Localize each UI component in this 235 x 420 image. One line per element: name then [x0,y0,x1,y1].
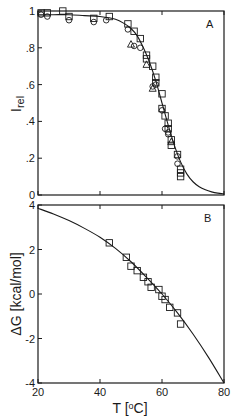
square-marker [140,274,146,280]
y-tick-label: .4 [26,115,35,127]
circle-marker [138,45,144,51]
panel-a-label: A [206,18,214,30]
circle-marker [66,17,72,23]
y-tick-label: .8 [26,42,35,54]
panel-a-frame [38,11,224,195]
panel-b-ticks: -4-202420406080 [25,199,230,398]
panel-b-data-points [106,240,184,328]
y-tick-label: .6 [26,79,35,91]
y-tick-label: 1 [29,5,35,17]
square-marker [177,321,183,327]
panel-b-fit-curve [38,208,224,383]
circle-marker [91,19,97,25]
y-tick-label: 4 [29,199,35,211]
panel-b-frame [38,205,224,383]
y-tick-label: .2 [26,152,35,164]
panel-a-data-points [38,8,184,180]
y-tick-label: 2 [29,244,35,256]
y-tick-label: -2 [25,333,35,345]
x-tick-label: 80 [218,386,230,398]
panel-a-y-axis-label: Irel [8,96,26,112]
panel-b-label: B [204,212,211,224]
x-tick-label: 60 [156,386,168,398]
y-tick-label: 0 [29,288,35,300]
figure: 0.2.4.6.81 A Irel -4-202420406080 B ΔG [… [0,0,235,420]
x-axis-label: T [oC] [112,400,147,416]
fit-curve [38,208,224,383]
x-tick-label: 40 [94,386,106,398]
square-marker [177,173,183,179]
panel-a: 0.2.4.6.81 A Irel [8,5,224,201]
panel-a-ticks: 0.2.4.6.81 [26,5,224,201]
square-marker [177,170,183,176]
panel-b: -4-202420406080 B ΔG [kcal/mol] T [oC] [8,199,230,416]
panel-b-y-axis-label: ΔG [kcal/mol] [8,252,24,335]
x-tick-label: 20 [32,386,44,398]
